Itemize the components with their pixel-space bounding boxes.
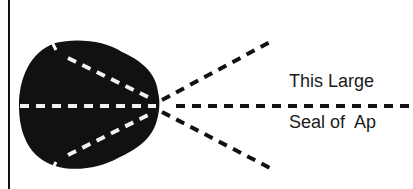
ray-lower (162, 112, 270, 168)
seal-diagram (0, 0, 413, 189)
caption-line-2: Seal of Ap (289, 113, 376, 131)
caption-line-1: This Large (289, 72, 374, 90)
projection-rays (162, 42, 413, 168)
ray-upper (162, 42, 270, 100)
